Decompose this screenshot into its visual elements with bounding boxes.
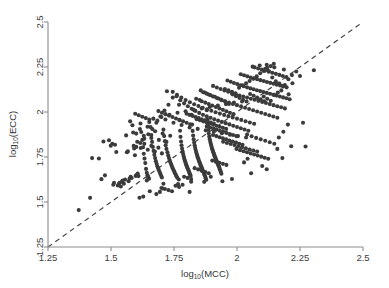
data-point <box>268 140 272 144</box>
data-point <box>280 156 284 160</box>
data-point <box>192 108 196 112</box>
data-point <box>203 101 207 105</box>
data-point <box>248 147 252 151</box>
data-point <box>130 176 134 180</box>
data-point <box>277 136 281 140</box>
data-point <box>185 121 189 125</box>
data-point <box>179 96 183 100</box>
data-point <box>201 90 205 94</box>
data-point <box>286 123 290 127</box>
data-point <box>175 93 179 97</box>
data-point <box>150 127 154 131</box>
data-point <box>258 64 262 68</box>
data-point <box>298 74 302 78</box>
data-point <box>275 104 279 108</box>
data-point <box>232 101 236 105</box>
data-point <box>301 121 305 125</box>
data-point <box>103 173 107 177</box>
data-point <box>101 139 105 143</box>
data-point <box>188 190 192 194</box>
data-point <box>244 119 248 123</box>
data-point <box>143 161 147 165</box>
data-point <box>188 100 192 104</box>
data-point <box>112 181 116 185</box>
data-point <box>168 134 172 138</box>
data-point <box>186 104 190 108</box>
data-point <box>234 134 238 138</box>
data-point <box>276 91 280 95</box>
data-point <box>144 167 148 171</box>
data-point <box>286 77 290 81</box>
x-tick-label: 1.5 <box>104 252 117 263</box>
data-point <box>189 177 193 181</box>
data-point <box>216 96 220 100</box>
data-point <box>133 153 137 157</box>
data-point <box>303 145 307 149</box>
data-point <box>211 84 215 88</box>
data-point <box>192 102 196 106</box>
data-point <box>203 170 207 174</box>
data-point <box>123 177 127 181</box>
data-point <box>263 156 267 160</box>
data-point <box>289 144 293 148</box>
data-point <box>164 140 168 144</box>
data-point <box>184 98 188 102</box>
data-point <box>275 116 279 120</box>
data-point <box>191 129 195 133</box>
data-point <box>177 185 181 189</box>
data-point <box>208 93 212 97</box>
data-point <box>200 169 204 173</box>
data-point <box>145 178 149 182</box>
data-point <box>252 94 256 98</box>
data-point <box>142 157 146 161</box>
data-point <box>272 62 276 66</box>
data-point <box>259 155 263 159</box>
data-point <box>217 106 221 110</box>
data-point <box>208 116 212 120</box>
data-point <box>156 109 160 113</box>
data-point <box>221 162 225 166</box>
data-point <box>275 147 279 151</box>
data-point <box>260 164 264 168</box>
data-point <box>138 127 142 131</box>
data-point <box>255 74 259 78</box>
data-point <box>205 92 209 96</box>
data-point <box>142 152 146 156</box>
data-point <box>279 105 283 109</box>
data-point <box>160 175 164 179</box>
data-point <box>254 136 258 140</box>
data-point <box>239 104 243 108</box>
data-point <box>126 149 130 153</box>
data-point <box>214 105 218 109</box>
data-point <box>179 139 183 143</box>
data-point <box>251 108 255 112</box>
data-point <box>241 98 245 102</box>
data-point <box>258 71 262 75</box>
y-tick-label: 2 <box>34 109 45 114</box>
data-point <box>240 143 244 147</box>
data-point <box>205 114 209 118</box>
data-point <box>165 89 169 93</box>
data-point <box>239 126 243 130</box>
data-point <box>167 114 171 118</box>
data-point <box>262 99 266 103</box>
data-point <box>194 97 198 101</box>
data-point <box>209 175 213 179</box>
data-point <box>288 97 292 101</box>
data-point <box>251 77 255 81</box>
data-point <box>240 83 244 87</box>
data-point <box>222 113 226 117</box>
data-point <box>153 150 157 154</box>
data-point <box>119 184 123 188</box>
data-point <box>312 68 316 72</box>
data-point <box>290 73 294 77</box>
y-axis-title: log10(ECC) <box>7 111 19 157</box>
data-point <box>212 117 216 121</box>
data-point <box>252 152 256 156</box>
data-point <box>137 196 141 200</box>
data-point <box>193 166 197 170</box>
data-point <box>182 175 186 179</box>
data-point <box>181 183 185 187</box>
data-point <box>90 156 94 160</box>
data-point <box>196 127 200 131</box>
